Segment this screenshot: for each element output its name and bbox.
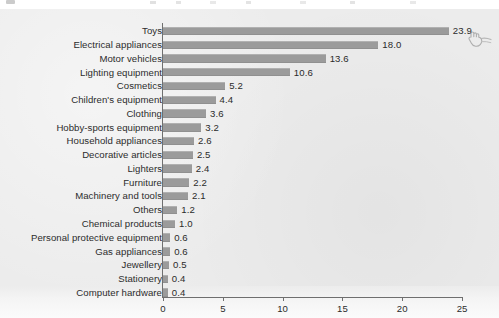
bar-value-label: 2.4 bbox=[196, 162, 210, 176]
bar bbox=[163, 82, 225, 90]
category-label: Stationery bbox=[0, 272, 162, 286]
category-label: Clothing bbox=[0, 107, 162, 121]
bar bbox=[163, 233, 170, 241]
bar-value-label: 13.6 bbox=[330, 52, 349, 66]
bar-value-label: 1.0 bbox=[179, 217, 193, 231]
bar-value-label: 0.6 bbox=[174, 245, 188, 259]
category-label: Gas appliances bbox=[0, 245, 162, 259]
bar-value-label: 18.0 bbox=[382, 38, 401, 52]
bar bbox=[163, 151, 193, 159]
bar-value-label: 2.6 bbox=[198, 134, 212, 148]
bar-row: Others1.2 bbox=[0, 203, 499, 217]
x-axis-line bbox=[162, 297, 462, 298]
bar-row: Chemical products1.0 bbox=[0, 217, 499, 231]
category-label: Personal protective equipment bbox=[0, 231, 162, 245]
bar-row: Toys23.9 bbox=[0, 24, 499, 38]
bar bbox=[163, 54, 326, 62]
category-label: Lighting equipment bbox=[0, 66, 162, 80]
bar-chart-figure: Toys23.9Electrical appliances18.0Motor v… bbox=[0, 0, 499, 318]
category-label: Children's equipment bbox=[0, 93, 162, 107]
bar-value-label: 10.6 bbox=[294, 66, 313, 80]
bar-value-label: 0.5 bbox=[173, 258, 187, 272]
bar-row: Furniture2.2 bbox=[0, 176, 499, 190]
bar-row: Children's equipment4.4 bbox=[0, 93, 499, 107]
bar bbox=[163, 206, 177, 214]
category-label: Others bbox=[0, 203, 162, 217]
bar-value-label: 1.2 bbox=[181, 203, 195, 217]
bar bbox=[163, 164, 192, 172]
x-axis-tick bbox=[342, 297, 343, 301]
x-axis-tick-label: 25 bbox=[457, 303, 468, 314]
bar-row: Household appliances2.6 bbox=[0, 134, 499, 148]
x-axis-tick-label: 15 bbox=[337, 303, 348, 314]
category-label: Computer hardware bbox=[0, 286, 162, 300]
bar-value-label: 2.5 bbox=[197, 148, 211, 162]
bar-value-label: 2.1 bbox=[192, 189, 206, 203]
bar-value-label: 0.4 bbox=[172, 272, 186, 286]
bar-row: Machinery and tools2.1 bbox=[0, 189, 499, 203]
category-label: Household appliances bbox=[0, 134, 162, 148]
bar-row: Decorative articles2.5 bbox=[0, 148, 499, 162]
x-axis-tick bbox=[283, 297, 284, 301]
clipped-text-ghost bbox=[150, 1, 480, 4]
category-label: Chemical products bbox=[0, 217, 162, 231]
bar bbox=[163, 68, 290, 76]
category-label: Toys bbox=[0, 24, 162, 38]
bar bbox=[163, 275, 168, 283]
bar-row: Motor vehicles13.6 bbox=[0, 52, 499, 66]
bar-row: Jewellery0.5 bbox=[0, 258, 499, 272]
plot-area: Toys23.9Electrical appliances18.0Motor v… bbox=[0, 9, 499, 318]
bar-row: Gas appliances0.6 bbox=[0, 245, 499, 259]
bar bbox=[163, 261, 169, 269]
x-axis-tick-label: 20 bbox=[397, 303, 408, 314]
x-axis-tick bbox=[462, 297, 463, 301]
scan-speck bbox=[6, 0, 15, 4]
x-axis-tick-label: 0 bbox=[160, 303, 165, 314]
bar bbox=[163, 220, 175, 228]
category-label: Decorative articles bbox=[0, 148, 162, 162]
bar-row: Electrical appliances18.0 bbox=[0, 38, 499, 52]
bar-row: Lighters2.4 bbox=[0, 162, 499, 176]
category-label: Electrical appliances bbox=[0, 38, 162, 52]
bar bbox=[163, 288, 168, 296]
bar-value-label: 3.2 bbox=[205, 121, 219, 135]
x-axis-tick bbox=[402, 297, 403, 301]
x-axis-tick-label: 10 bbox=[277, 303, 288, 314]
clipped-header-sliver bbox=[0, 0, 499, 9]
bar-value-label: 2.2 bbox=[193, 176, 207, 190]
bar bbox=[163, 247, 170, 255]
category-label: Cosmetics bbox=[0, 79, 162, 93]
bar-value-label: 5.2 bbox=[229, 79, 243, 93]
bar-row: Stationery0.4 bbox=[0, 272, 499, 286]
bar-value-label: 0.6 bbox=[174, 231, 188, 245]
bar-value-label: 23.9 bbox=[453, 24, 472, 38]
bar bbox=[163, 123, 201, 131]
bar-value-label: 3.6 bbox=[210, 107, 224, 121]
bar bbox=[163, 41, 378, 49]
category-label: Motor vehicles bbox=[0, 52, 162, 66]
bar-row: Lighting equipment10.6 bbox=[0, 66, 499, 80]
bar-value-label: 4.4 bbox=[220, 93, 234, 107]
bar bbox=[163, 27, 449, 35]
category-label: Jewellery bbox=[0, 258, 162, 272]
category-label: Machinery and tools bbox=[0, 189, 162, 203]
x-axis-tick bbox=[223, 297, 224, 301]
x-axis-tick bbox=[163, 297, 164, 301]
category-label: Lighters bbox=[0, 162, 162, 176]
bar-row: Cosmetics5.2 bbox=[0, 79, 499, 93]
bar bbox=[163, 109, 206, 117]
x-axis-tick-label: 5 bbox=[220, 303, 225, 314]
bar bbox=[163, 178, 189, 186]
bar bbox=[163, 137, 194, 145]
category-label: Furniture bbox=[0, 176, 162, 190]
bar-row: Personal protective equipment0.6 bbox=[0, 231, 499, 245]
bar-row: Clothing3.6 bbox=[0, 107, 499, 121]
bar bbox=[163, 192, 188, 200]
y-axis-line bbox=[162, 23, 163, 297]
bar-row: Hobby-sports equipment3.2 bbox=[0, 121, 499, 135]
bar bbox=[163, 96, 216, 104]
category-label: Hobby-sports equipment bbox=[0, 121, 162, 135]
